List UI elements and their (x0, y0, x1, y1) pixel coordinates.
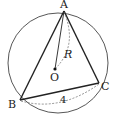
label-radius-r: R (63, 48, 72, 61)
label-b: B (8, 98, 16, 111)
label-c: C (101, 80, 109, 93)
geometry-diagram: A B C O R 4 (0, 0, 118, 124)
circumcircle (8, 13, 108, 113)
label-o: O (50, 71, 59, 84)
side-ac (64, 11, 99, 83)
label-a: A (59, 0, 69, 11)
diagram-canvas: A B C O R 4 (0, 0, 118, 124)
label-side-bc-length: 4 (60, 94, 66, 105)
